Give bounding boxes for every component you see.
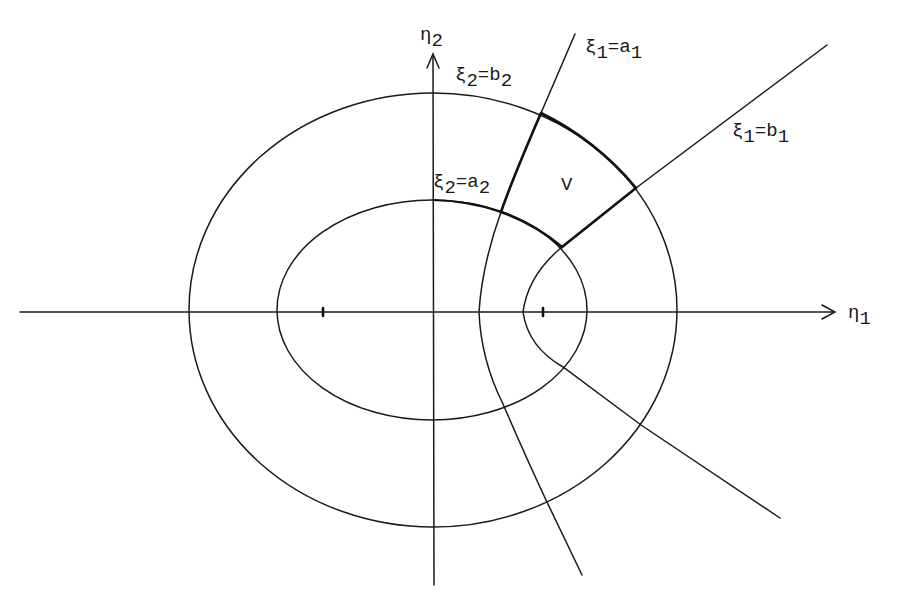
hyperbola-xi1-a1 (479, 34, 582, 575)
eta2-axis (433, 56, 434, 585)
region-v-right-boundary (562, 188, 636, 247)
label-xi2-a2: ξ2=a2 (433, 171, 490, 199)
region-v-left-boundary (501, 113, 541, 212)
eta2-axis-label: η2 (420, 24, 443, 52)
elliptic-coordinates-diagram: η2 η1 ξ2=b2 ξ2=a2 ξ1=a1 ξ1=b1 V (0, 0, 899, 598)
label-xi1-b1: ξ1=b1 (732, 120, 789, 148)
eta1-axis-label: η1 (848, 302, 871, 330)
label-xi2-b2: ξ2=b2 (455, 64, 512, 92)
region-v-label: V (561, 174, 573, 196)
label-xi1-a1: ξ1=a1 (585, 36, 642, 64)
inner-ellipse-emphasis (433, 200, 501, 212)
region-v-top-boundary (541, 113, 636, 188)
